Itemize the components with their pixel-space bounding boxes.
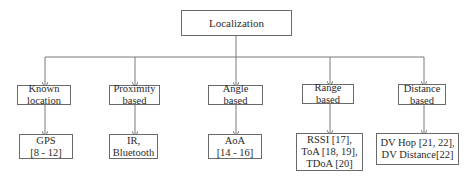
node-proximity-based: Proximity based [109, 85, 160, 105]
leaf-label: RSSI [17], ToA [18, 19], TDoA [20] [301, 134, 357, 170]
node-known-location: Known location [17, 85, 71, 105]
leaf-ir-bluetooth: IR, Bluetooth [109, 134, 158, 159]
node-range-based: Range based [302, 84, 354, 104]
node-label: Range based [315, 82, 342, 106]
leaf-aoa: AoA [14 - 16] [208, 134, 262, 159]
leaf-rssi-toa-tdoa: RSSI [17], ToA [18, 19], TDoA [20] [296, 133, 363, 171]
leaf-gps: GPS [8 - 12] [19, 134, 73, 159]
leaf-dv-hop-distance: DV Hop [21, 22], DV Distance[22] [376, 133, 459, 165]
node-label: Known location [27, 83, 61, 107]
leaf-label: GPS [8 - 12] [30, 135, 62, 159]
node-label: Localization [209, 17, 264, 29]
node-label: Distance based [404, 83, 441, 107]
leaf-label: DV Hop [21, 22], DV Distance[22] [380, 137, 454, 161]
node-label: Proximity based [113, 83, 155, 107]
node-localization: Localization [181, 10, 292, 36]
leaf-label: IR, Bluetooth [113, 135, 154, 159]
node-angle-based: Angle based [208, 85, 263, 105]
node-label: Angle based [223, 83, 249, 107]
node-distance-based: Distance based [398, 84, 446, 105]
leaf-label: AoA [14 - 16] [217, 135, 254, 159]
